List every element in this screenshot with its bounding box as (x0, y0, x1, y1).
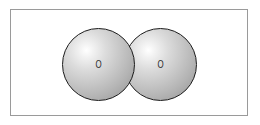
atom-label-right: O (135, 29, 186, 100)
atom-sphere-left: O (62, 28, 135, 101)
oxygen-molecule: O O (0, 0, 260, 125)
atom-label-left: O (73, 29, 124, 100)
figure-root: O O (0, 0, 260, 125)
